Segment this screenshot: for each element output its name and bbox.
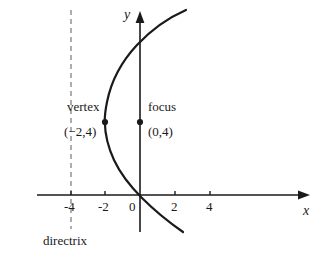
focus-point-marker [137,119,143,125]
x-tick-label--4: -4 [64,200,75,213]
vertex-point-marker [102,119,108,125]
vertex-label: vertex [67,100,99,113]
parabola-figure: -4 -2 0 2 4 x y vertex (−2,4) focus (0,4… [0,0,332,260]
focus-label: focus [148,100,176,113]
vertex-coordinate-label: (−2,4) [64,125,96,138]
y-axis-arrowhead [136,11,145,23]
x-axis-label: x [303,204,309,218]
x-tick-label--2: -2 [98,200,109,213]
x-tick-label-0: 0 [129,200,136,213]
x-tick-label-2: 2 [171,200,178,213]
y-axis-label: y [124,8,130,22]
directrix-label: directrix [43,234,87,247]
x-axis-arrowhead [298,191,310,200]
focus-coordinate-label: (0,4) [148,125,173,138]
x-tick-label-4: 4 [206,200,213,213]
